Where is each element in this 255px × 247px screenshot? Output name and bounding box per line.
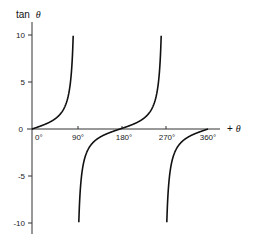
x-axis-title-prefix: +	[227, 123, 233, 134]
theta-symbol: θ	[236, 123, 241, 134]
x-axis-title: + θ	[227, 123, 241, 134]
y-tick-label: -10	[13, 219, 25, 228]
tan-chart: 10 5 0 -5 -10 0° 90° 180° 270° 360° tan …	[0, 0, 255, 247]
y-tick-label: -5	[18, 172, 26, 181]
y-tick-label: 5	[21, 78, 26, 87]
x-tick-label: 180°	[116, 133, 133, 142]
x-tick-label: 270°	[159, 133, 176, 142]
tan-curve-branch	[32, 36, 73, 129]
y-tick-label: 10	[16, 31, 25, 40]
x-tick-label: 0°	[35, 133, 43, 142]
y-axis-title: tan θ	[16, 9, 41, 20]
theta-symbol: θ	[36, 9, 41, 20]
x-tick-label: 360°	[200, 133, 217, 142]
y-axis-title-prefix: tan	[16, 9, 30, 20]
tan-curve-branch	[167, 129, 208, 222]
y-tick-label: 0	[19, 125, 24, 134]
x-tick-label: 90°	[72, 133, 84, 142]
